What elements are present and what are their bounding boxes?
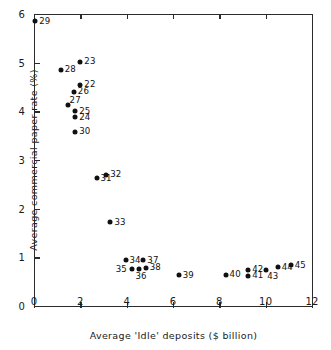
data-point-41 [246, 273, 251, 278]
data-point-29 [33, 19, 38, 24]
x-tick-top-6 [173, 14, 174, 19]
plot-area: 2928232226272524303132333437353638394042… [34, 14, 313, 307]
data-point-label-35: 35 [116, 264, 127, 274]
data-point-label-27: 27 [70, 95, 81, 105]
data-point-30 [73, 129, 78, 134]
data-point-32 [104, 172, 109, 177]
x-tick-label-6: 6 [170, 296, 177, 307]
data-point-label-33: 33 [114, 217, 125, 227]
data-point-label-30: 30 [79, 126, 90, 136]
x-tick-label-10: 10 [259, 296, 272, 307]
x-tick-label-4: 4 [123, 296, 130, 307]
y-tick-label-5: 5 [18, 57, 25, 68]
data-point-label-38: 38 [150, 262, 161, 272]
data-point-label-36: 36 [135, 271, 146, 281]
data-point-35 [129, 267, 134, 272]
data-point-23 [78, 59, 83, 64]
data-point-40 [223, 272, 228, 277]
y-tick-label-3: 3 [18, 155, 25, 166]
data-point-33 [108, 220, 113, 225]
y-tick-1 [34, 257, 40, 258]
data-point-label-34: 34 [130, 255, 141, 265]
y-tick-2 [34, 209, 40, 210]
data-point-38 [143, 265, 148, 270]
y-tick-label-1: 1 [18, 252, 25, 263]
x-tick-label-0: 0 [31, 296, 38, 307]
y-tick-5 [34, 63, 40, 64]
x-tick-top-2 [80, 14, 81, 19]
scatter-plot-figure: Average commercial paper rate (%) 012345… [0, 0, 331, 350]
data-point-37 [141, 258, 146, 263]
data-point-25 [73, 109, 78, 114]
x-tick-top-10 [266, 14, 267, 19]
y-tick-label-4: 4 [18, 106, 25, 117]
data-point-label-29: 29 [39, 16, 50, 26]
x-axis-label: Average 'Idle' deposits ($ billion) [34, 330, 313, 341]
x-tick-label-12: 12 [305, 296, 318, 307]
data-point-45 [288, 263, 293, 268]
data-point-label-39: 39 [183, 270, 194, 280]
data-point-42 [246, 267, 251, 272]
data-point-label-40: 40 [230, 269, 241, 279]
data-point-28 [58, 67, 63, 72]
x-tick-top-4 [127, 14, 128, 19]
data-point-34 [123, 258, 128, 263]
y-tick-label-2: 2 [18, 203, 25, 214]
data-point-label-45: 45 [295, 260, 306, 270]
data-point-26 [71, 89, 76, 94]
y-tick-3 [34, 160, 40, 161]
data-point-31 [94, 176, 99, 181]
data-point-label-24: 24 [79, 112, 90, 122]
y-tick-label-0: 0 [18, 301, 25, 312]
data-point-label-23: 23 [84, 56, 95, 66]
data-point-24 [73, 115, 78, 120]
data-point-39 [176, 273, 181, 278]
y-tick-4 [34, 111, 40, 112]
y-axis-tick-labels: 0123456 [14, 14, 34, 307]
x-tick-top-12 [312, 14, 313, 19]
data-point-label-43: 43 [267, 271, 278, 281]
y-tick-label-6: 6 [18, 9, 25, 20]
data-point-44 [275, 265, 280, 270]
right-spine [312, 14, 313, 307]
data-point-label-28: 28 [65, 64, 76, 74]
x-tick-top-8 [219, 14, 220, 19]
data-point-label-32: 32 [110, 169, 121, 179]
data-point-label-41: 41 [252, 270, 263, 280]
x-tick-label-8: 8 [216, 296, 223, 307]
x-tick-label-2: 2 [77, 296, 84, 307]
